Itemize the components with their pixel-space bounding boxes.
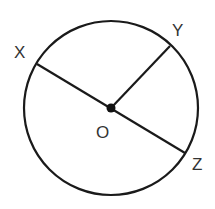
label-y: Y	[172, 21, 183, 40]
center-point	[107, 104, 116, 113]
circle-diagram: X Y O Z	[0, 0, 215, 209]
label-x: X	[14, 43, 25, 62]
radius-oy	[111, 46, 170, 108]
label-o: O	[96, 123, 109, 142]
label-z: Z	[192, 155, 202, 174]
